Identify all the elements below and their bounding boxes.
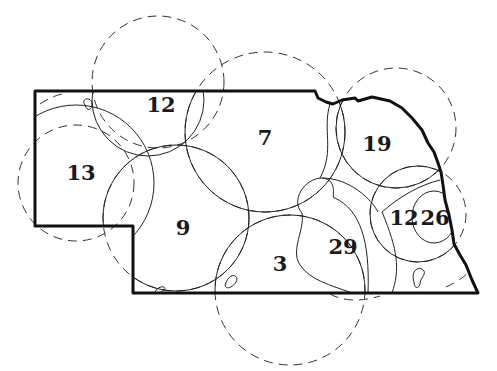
region-label-29: 29: [328, 236, 357, 257]
region-label-12-east: 12: [389, 207, 418, 228]
region-label-3: 3: [273, 253, 288, 274]
region-label-26: 26: [420, 207, 449, 228]
region-map: [0, 0, 497, 371]
region-label-12-west: 12: [146, 94, 175, 115]
state-outline: [35, 91, 478, 293]
region-label-13: 13: [66, 162, 95, 183]
region-label-9: 9: [176, 217, 191, 238]
region-label-19: 19: [362, 133, 391, 154]
region-label-7: 7: [258, 127, 273, 148]
